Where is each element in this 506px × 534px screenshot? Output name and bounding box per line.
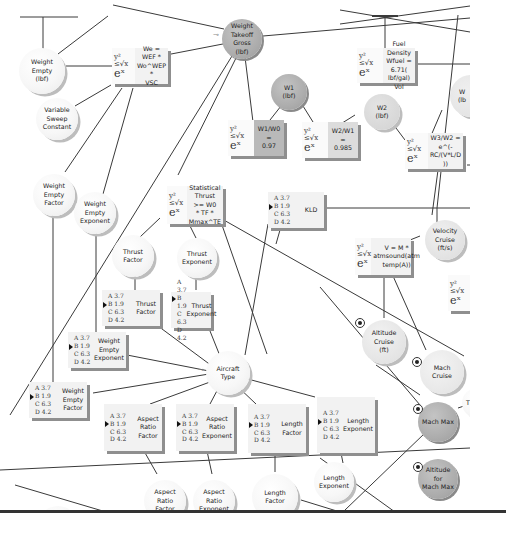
node-variable-sweep-constant[interactable]: VariableSweepConstant xyxy=(36,98,78,140)
options-list[interactable]: A 3.7 B 1.9 C 6.3 D 4.2 xyxy=(29,384,61,416)
input-node-indicator-icon[interactable] xyxy=(412,357,422,367)
table-label: Weight EmptyFactor xyxy=(61,387,87,413)
options-list[interactable]: A 3.7 B 1.9 C 6.3 D 4.2 xyxy=(104,412,136,444)
node-length-factor[interactable]: Length Factor xyxy=(252,474,298,512)
table-label: Weight EmptyExponent xyxy=(94,337,126,363)
options-list[interactable]: A 3.7 B 1.9 C 6.3 D 4.2 xyxy=(248,413,280,445)
node-unit: (lbf) xyxy=(36,75,49,82)
function-text: Wo^WEP * xyxy=(137,62,166,78)
node-weight-empty-factor[interactable]: Weight EmptyFactor xyxy=(33,174,75,216)
selected-marker-icon xyxy=(249,422,253,428)
node-w2[interactable]: W2(lbf) xyxy=(364,94,400,130)
function-statistical-thrust[interactable]: y²≤√xeˣ StatisticalThrust >= W0* TF *Mma… xyxy=(167,186,223,224)
key-icon: ⊸ xyxy=(198,366,204,374)
bottom-border xyxy=(0,510,506,513)
table-label: Thrust Factor xyxy=(134,300,160,317)
function-icon: y²≤√xeˣ xyxy=(228,120,254,156)
function-w3-w2[interactable]: y²≤√xeˣ W3/W2 =e^(-RC/(V*L/D)) xyxy=(405,133,463,169)
function-partial-right[interactable]: y²≤√xeˣ ThTe0. xyxy=(448,275,470,311)
function-w2-w1[interactable]: y²≤√xeˣ W2/W1 =0.985 xyxy=(302,122,358,158)
node-thrust-exponent[interactable]: ThrustExponent xyxy=(177,238,217,278)
table-weight-empty-factor[interactable]: A 3.7 B 1.9 C 6.3 D 4.2 Weight EmptyFact… xyxy=(29,382,87,418)
node-altitude-cruise[interactable]: Altitude Cruise(ft) xyxy=(362,320,406,364)
table-label: KLD xyxy=(300,206,324,215)
function-velocity[interactable]: y²≤√xeˣ V = M *atmsound(atmtemp(A)) xyxy=(355,238,411,275)
function-fuel-density[interactable]: y²≤√xeˣ Fuel DensityWfuel = 6.71(lbf/gal… xyxy=(357,48,415,83)
table-kld[interactable]: A 3.7 B 1.9 C 6.3 D 4.2 KLD xyxy=(268,192,324,228)
input-node-indicator-icon[interactable] xyxy=(413,462,423,472)
node-thrust-factor[interactable]: Thrust Factor xyxy=(112,235,154,277)
function-icon: y²≤√xeˣ xyxy=(357,48,383,83)
table-aspect-ratio-exponent[interactable]: A 3.7 B 1.9 C 6.3 D 4.2 Aspect RatioExpo… xyxy=(176,404,234,451)
options-list[interactable]: A 3.7 B 1.9 C 6.3 D 4.2 xyxy=(317,409,343,441)
table-weight-empty-exponent[interactable]: A 3.7 B 1.9 C 6.3 D 4.2 Weight EmptyExpo… xyxy=(68,332,126,368)
function-icon: y²≤√xeˣ xyxy=(112,48,135,84)
table-thrust-factor[interactable]: A 3.7 B 1.9 C 6.3 D 4.2 Thrust Factor xyxy=(102,290,160,326)
function-w1-w0[interactable]: y²≤√xeˣ W1/W0 =0.97 xyxy=(228,120,284,156)
node-weight-empty[interactable]: Weight Empty(lbf) xyxy=(19,48,65,94)
options-list[interactable]: A 3.7 B 1.9 C 6.3 D 4.2 xyxy=(171,278,187,341)
node-mach-cruise[interactable]: Mach Cruise xyxy=(420,350,464,394)
node-aircraft-type[interactable]: Aircraft Type xyxy=(206,351,250,395)
input-node-indicator-icon[interactable] xyxy=(413,404,423,414)
function-icon: y²≤√xeˣ xyxy=(405,133,428,169)
table-length-exponent[interactable]: A 3.7 B 1.9 C 6.3 D 4.2 LengthExponent xyxy=(317,397,375,453)
options-list[interactable]: A 3.7 B 1.9 C 6.3 D 4.2 xyxy=(268,194,300,226)
table-label: LengthExponent xyxy=(343,417,375,434)
table-label: Aspect RatioExponent xyxy=(202,415,234,441)
node-altitude-for-mach-max[interactable]: Altitude forMach Max xyxy=(418,459,458,499)
function-text: VSC xyxy=(145,79,158,86)
selected-marker-icon xyxy=(105,421,109,427)
table-thrust-exponent[interactable]: A 3.7 B 1.9 C 6.3 D 4.2 ThrustExponent xyxy=(171,292,211,328)
diagram-canvas[interactable]: Weight Empty(lbf) y²≤√xeˣ We = WEF *Wo^W… xyxy=(0,0,470,512)
selected-marker-icon xyxy=(172,296,176,302)
selected-marker-icon xyxy=(177,421,181,427)
selected-marker-icon xyxy=(69,344,73,350)
table-label: ThrustExponent xyxy=(187,302,219,319)
table-label: Aspect RatioFactor xyxy=(136,415,162,441)
function-icon: y²≤√xeˣ xyxy=(448,275,470,311)
selected-marker-icon xyxy=(318,419,322,425)
function-text: We = WEF * xyxy=(142,45,161,61)
selected-marker-icon xyxy=(30,394,34,400)
node-velocity-cruise[interactable]: VelocityCruise(ft/s) xyxy=(425,220,465,260)
function-weight-empty[interactable]: y²≤√xeˣ We = WEF *Wo^WEP *VSC xyxy=(112,48,168,84)
options-list[interactable]: A 3.7 B 1.9 C 6.3 D 4.2 xyxy=(102,292,134,324)
table-length-factor[interactable]: A 3.7 B 1.9 C 6.3 D 4.2 Length Factor xyxy=(248,404,306,453)
function-icon: y²≤√xeˣ xyxy=(302,122,328,158)
node-label: Weight Empty xyxy=(31,58,53,74)
function-icon: y²≤√xeˣ xyxy=(167,186,187,224)
node-mach-max[interactable]: Mach Max xyxy=(418,402,458,442)
table-label: Length Factor xyxy=(280,420,306,437)
node-w1[interactable]: W1(lbf) xyxy=(271,74,307,110)
function-icon: y²≤√xeˣ xyxy=(355,238,371,275)
options-list[interactable]: A 3.7 B 1.9 C 6.3 D 4.2 xyxy=(176,412,202,444)
key-icon: ⊸ xyxy=(213,31,219,39)
input-node-indicator-icon[interactable] xyxy=(355,318,365,328)
node-length-exponent[interactable]: LengthExponent xyxy=(314,462,354,502)
table-aspect-ratio-factor[interactable]: A 3.7 B 1.9 C 6.3 D 4.2 Aspect RatioFact… xyxy=(104,404,162,451)
selected-marker-icon xyxy=(269,204,273,210)
selected-marker-icon xyxy=(103,302,107,308)
node-weight-empty-exponent[interactable]: Weight EmptyExponent xyxy=(74,192,116,234)
options-list[interactable]: A 3.7 B 1.9 C 6.3 D 4.2 xyxy=(68,334,94,366)
node-weight-takeoff-gross[interactable]: WeightTakeoff Gross(lbf) xyxy=(222,19,262,59)
